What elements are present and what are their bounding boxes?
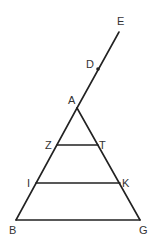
label-G: G xyxy=(139,224,148,236)
label-E: E xyxy=(117,15,124,27)
label-D: D xyxy=(86,58,94,70)
label-I: I xyxy=(27,177,30,189)
label-A: A xyxy=(68,94,76,106)
point-D-marker xyxy=(96,67,100,71)
side-AB xyxy=(16,108,77,220)
side-AG xyxy=(77,108,140,220)
segments-group xyxy=(16,32,140,220)
label-K: K xyxy=(122,177,130,189)
label-Z: Z xyxy=(45,139,52,151)
label-B: B xyxy=(9,224,16,236)
labels-group: E D A Z T I K B G xyxy=(9,15,148,236)
label-T: T xyxy=(99,139,106,151)
points-group xyxy=(96,67,100,71)
geometry-diagram: E D A Z T I K B G xyxy=(0,0,154,244)
